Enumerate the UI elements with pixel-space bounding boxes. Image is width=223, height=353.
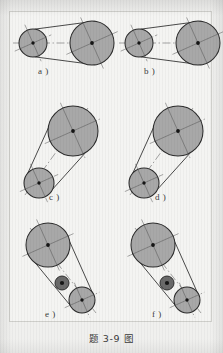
pulley-hub-d-small	[142, 181, 145, 184]
panel-d	[125, 103, 206, 202]
pulley-hub-a-small	[31, 41, 34, 44]
pulley-hub-d-large	[176, 129, 180, 133]
belt-drive-figure	[0, 0, 223, 353]
panel-label-b: b )	[144, 66, 155, 76]
pulley-hub-f-large	[151, 243, 155, 247]
pulley-hub-f-small	[185, 298, 188, 301]
pulley-hub-c-small	[37, 181, 40, 184]
pulley-hub-e-large	[46, 243, 50, 247]
panel-e	[22, 219, 99, 317]
figure-caption: 题 3-9 图	[0, 331, 223, 345]
panel-a	[13, 17, 118, 68]
panel-label-c: c )	[49, 192, 60, 202]
pulley-hub-b-small	[137, 41, 140, 44]
pulley-hub-a-large	[90, 41, 94, 45]
panel-label-a: a )	[38, 66, 49, 76]
panel-b	[119, 17, 223, 68]
panel-label-f: f )	[152, 309, 162, 319]
panel-f	[127, 219, 204, 317]
panel-label-e: e )	[45, 309, 56, 319]
pulley-hub-b-large	[196, 41, 200, 45]
figure-page: a ) b ) c ) d ) e ) f ) 题 3-9 图	[0, 0, 223, 353]
pulley-hub-c-large	[71, 129, 75, 133]
idler-hub-f	[165, 281, 169, 285]
panel-c	[20, 103, 101, 202]
pulley-hub-e-small	[80, 298, 83, 301]
panel-label-d: d )	[155, 192, 166, 202]
idler-hub-e	[60, 281, 64, 285]
